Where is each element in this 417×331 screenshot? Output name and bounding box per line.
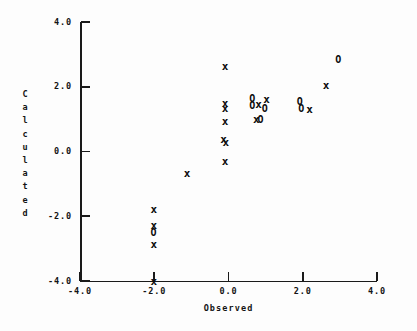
y-tick: [81, 21, 90, 23]
y-axis-title-char: l: [18, 114, 32, 127]
y-tick-label: -4.0: [32, 277, 72, 286]
y-axis-title-char: a: [18, 101, 32, 114]
data-point-x-marker: x: [220, 104, 230, 114]
x-tick-label: 2.0: [280, 286, 326, 296]
scatter-plot-figure: 4.02.00.0-2.0-4.0 -4.0-2.00.02.04.0 Calc…: [0, 0, 417, 331]
y-tick-label: 0.0: [32, 147, 72, 156]
data-point-x-marker: x: [220, 157, 230, 167]
x-tick: [376, 272, 378, 281]
y-axis-title-char: t: [18, 180, 32, 193]
data-point-o-marker: O: [247, 101, 257, 111]
data-point-o-marker: O: [149, 228, 159, 238]
x-tick-label: -4.0: [57, 286, 103, 296]
data-point-x-marker: x: [149, 277, 159, 287]
data-point-o-marker: O: [255, 115, 265, 125]
y-axis-title-char: u: [18, 141, 32, 154]
x-tick: [302, 272, 304, 281]
y-tick: [81, 86, 90, 88]
y-axis-title-char: a: [18, 167, 32, 180]
y-axis-title-char: d: [18, 207, 32, 220]
data-point-x-marker: x: [182, 169, 192, 179]
y-tick-label: -2.0: [32, 212, 72, 221]
data-point-x-marker: x: [321, 81, 331, 91]
y-tick: [81, 280, 90, 282]
data-point-o-marker: O: [333, 55, 343, 65]
x-tick: [228, 272, 230, 281]
y-tick: [81, 151, 90, 153]
data-point-o-marker: O: [260, 104, 270, 114]
y-tick: [81, 215, 90, 217]
y-axis-title-char: l: [18, 154, 32, 167]
data-point-x-marker: x: [221, 138, 231, 148]
x-tick: [79, 272, 81, 281]
x-tick-label: 0.0: [206, 286, 252, 296]
y-tick-label: 2.0: [32, 82, 72, 91]
y-axis-title-char: e: [18, 194, 32, 207]
y-axis-title-char: C: [18, 88, 32, 101]
x-axis-title: Observed: [0, 303, 417, 313]
data-point-x-marker: x: [149, 240, 159, 250]
y-tick-label: 4.0: [32, 18, 72, 27]
data-point-x-marker: x: [220, 117, 230, 127]
data-point-x-marker: x: [220, 62, 230, 72]
y-axis-title-char: c: [18, 128, 32, 141]
data-point-x-marker: x: [149, 205, 159, 215]
x-tick-label: 4.0: [354, 286, 400, 296]
y-axis-title: Calculated: [18, 88, 32, 220]
data-point-o-marker: O: [296, 104, 306, 114]
